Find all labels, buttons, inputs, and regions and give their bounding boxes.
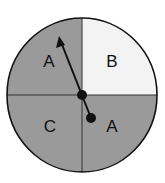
section-bottom-right	[82, 95, 165, 183]
section-top-left	[0, 0, 82, 95]
section-label-bottom-left: C	[44, 117, 56, 136]
section-top-right	[82, 0, 165, 95]
section-bottom-left	[0, 95, 82, 183]
section-label-top-left: A	[43, 52, 55, 71]
spinner-diagram: A B C A	[0, 0, 165, 183]
arrow-tail-dot	[86, 113, 96, 123]
pivot-dot	[77, 90, 87, 100]
section-label-bottom-right: A	[106, 117, 118, 136]
section-label-top-right: B	[106, 52, 117, 71]
